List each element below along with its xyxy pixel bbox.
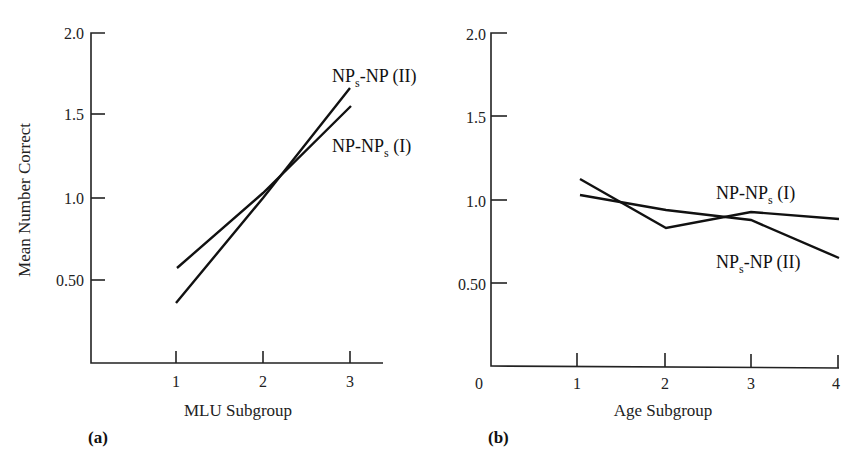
chart-b-series-nps-np-ii bbox=[580, 195, 839, 258]
chart-a-label-np-nps-i: NP-NPs (I) bbox=[332, 136, 411, 160]
chart-a-panel-label: (a) bbox=[88, 428, 108, 447]
chart-a-xtick-label: 1 bbox=[172, 373, 180, 390]
figure: Mean Number Correct 2.0 1.5 1.0 0.50 1 2… bbox=[0, 0, 857, 473]
chart-b-xtick-label: 0 bbox=[475, 375, 483, 392]
chart-b-ytick-label: 1.5 bbox=[466, 109, 486, 126]
chart-b-x-axis-title: Age Subgroup bbox=[614, 401, 713, 420]
chart-a-ytick-label: 0.50 bbox=[56, 272, 84, 289]
chart-b-xtick-label: 4 bbox=[832, 375, 840, 392]
chart-a-ytick-label: 1.0 bbox=[64, 190, 84, 207]
chart-a-x-axis-title: MLU Subgroup bbox=[184, 401, 292, 420]
chart-b-xtick-label: 2 bbox=[661, 375, 669, 392]
chart-b-ytick-label: 1.0 bbox=[466, 193, 486, 210]
chart-a-xtick-label: 2 bbox=[259, 373, 267, 390]
chart-b-series-np-nps-i bbox=[580, 179, 839, 228]
chart-b-panel-label: (b) bbox=[488, 428, 509, 447]
chart-a-ytick-label: 2.0 bbox=[64, 25, 84, 42]
chart-b: 2.0 1.5 1.0 0.50 0 1 2 3 4 Age Subgroup … bbox=[458, 26, 840, 447]
chart-b-xtick-label: 1 bbox=[573, 375, 581, 392]
chart-a-series-np-nps-i bbox=[177, 106, 351, 268]
chart-a-series-nps-np-ii bbox=[176, 88, 350, 303]
chart-b-ytick-label: 2.0 bbox=[466, 26, 486, 43]
chart-b-ytick-label: 0.50 bbox=[458, 276, 486, 293]
chart-a-label-nps-np-ii: NPs-NP (II) bbox=[332, 66, 417, 90]
chart-a-ytick-label: 1.5 bbox=[64, 106, 84, 123]
chart-b-xtick-label: 3 bbox=[747, 375, 755, 392]
chart-a-y-axis-title: Mean Number Correct bbox=[15, 123, 34, 277]
chart-a-xtick-label: 3 bbox=[346, 373, 354, 390]
chart-b-label-nps-np-ii: NPs-NP (II) bbox=[716, 252, 801, 276]
chart-a: Mean Number Correct 2.0 1.5 1.0 0.50 1 2… bbox=[15, 25, 417, 447]
chart-b-label-np-nps-i: NP-NPs (I) bbox=[716, 183, 795, 207]
